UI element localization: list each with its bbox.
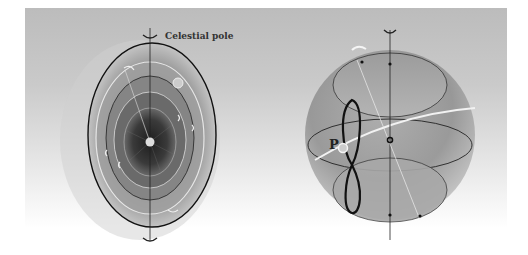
orbit-marker — [173, 78, 183, 88]
center-point — [146, 138, 155, 147]
point-p-marker — [339, 144, 348, 153]
pole-dot-top — [388, 62, 391, 65]
astronomy-diagram — [0, 0, 528, 255]
celestial-pole-label: Celestial pole — [165, 31, 234, 41]
left-precession-figure — [60, 28, 220, 241]
pole-dot-bottom — [388, 213, 391, 216]
tilted-pole-dot-top — [360, 60, 363, 63]
right-sphere-figure — [305, 30, 475, 240]
tilted-pole-dot-bottom — [418, 214, 421, 217]
rotation-arrow-tilted-icon — [352, 47, 366, 50]
point-p-label: P — [329, 137, 339, 152]
